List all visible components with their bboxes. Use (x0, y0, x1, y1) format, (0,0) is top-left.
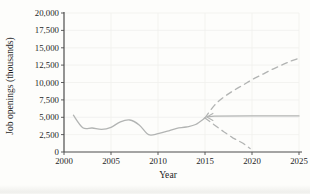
x-tick-label: 2005 (102, 156, 120, 166)
x-tick-label: 2025 (290, 156, 308, 166)
y-tick-label: 2,500 (39, 130, 59, 140)
y-tick-label: 5,000 (39, 112, 59, 122)
y-tick-label: 15,000 (35, 43, 60, 53)
y-tick-label: 7,500 (39, 95, 59, 105)
y-tick-label: 10,000 (35, 78, 60, 88)
job-openings-chart: 20002005201020152020202502,5005,0007,500… (0, 0, 310, 194)
y-axis-title: Job openings (thousands) (4, 37, 15, 135)
y-tick-label: 17,500 (35, 25, 60, 35)
x-tick-label: 2020 (243, 156, 261, 166)
series-line-steady-projection (207, 116, 299, 117)
x-tick-label: 2000 (55, 156, 73, 166)
y-tick-label: 20,000 (35, 8, 60, 18)
x-tick-label: 2010 (149, 156, 167, 166)
y-tick-label: 0 (55, 147, 60, 157)
series-line-pessimistic-projection (205, 118, 250, 149)
y-tick-label: 12,500 (35, 60, 60, 70)
x-axis-title: Year (159, 169, 177, 180)
series-line-historical-job-openings (73, 115, 205, 135)
chart-svg: 20002005201020152020202502,5005,0007,500… (0, 0, 310, 194)
x-tick-label: 2015 (196, 156, 214, 166)
